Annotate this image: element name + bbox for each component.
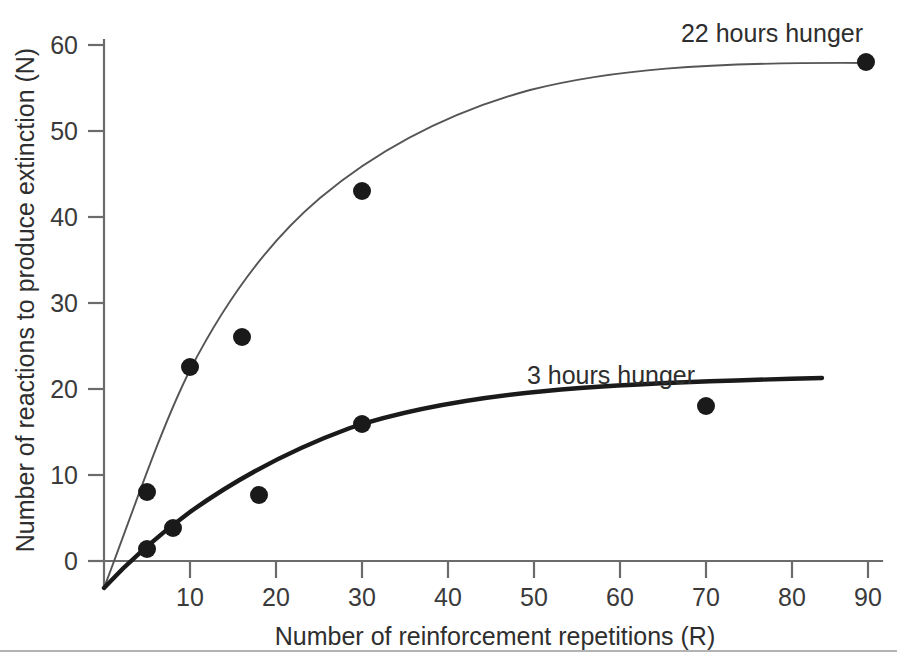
datapoint-3h-r5 (138, 540, 156, 558)
x-axis-title: Number of reinforcement repetitions (R) (275, 622, 715, 650)
fit-curve-22-hours-hunger (104, 63, 868, 588)
datapoint-22h-r10 (181, 358, 199, 376)
chart-figure: 60 50 40 30 20 10 0 10 20 30 40 50 60 70 (0, 0, 897, 652)
y-tick-label-50: 50 (50, 117, 78, 145)
x-tick-label-80: 80 (778, 583, 806, 611)
y-tick-label-60: 60 (50, 31, 78, 59)
series-3-hours-hunger (104, 378, 822, 588)
datapoint-3h-r18 (250, 486, 268, 504)
y-tick-label-40: 40 (50, 203, 78, 231)
x-tick-label-90: 90 (854, 583, 882, 611)
axis-group (104, 40, 882, 588)
x-tick-label-10: 10 (176, 583, 204, 611)
y-axis-title: Number of reactions to produce extinctio… (11, 48, 39, 552)
y-tick-label-20: 20 (50, 375, 78, 403)
datapoint-22h-r90 (857, 53, 875, 71)
x-tick-group: 10 20 30 40 50 60 70 80 90 (176, 561, 882, 611)
datapoint-22h-r16 (233, 328, 251, 346)
y-tick-group: 60 50 40 30 20 10 0 (50, 31, 104, 575)
y-tick-label-0: 0 (64, 547, 78, 575)
x-tick-label-40: 40 (434, 583, 462, 611)
series-label-22-hours-hunger: 22 hours hunger (681, 19, 863, 47)
x-tick-label-30: 30 (348, 583, 376, 611)
x-tick-label-20: 20 (262, 583, 290, 611)
scatter-plot-canvas: 60 50 40 30 20 10 0 10 20 30 40 50 60 70 (0, 0, 897, 652)
datapoint-22h-r30 (353, 182, 371, 200)
y-tick-label-10: 10 (50, 461, 78, 489)
x-tick-label-70: 70 (692, 583, 720, 611)
datapoint-3h-r30 (353, 415, 371, 433)
y-tick-label-30: 30 (50, 289, 78, 317)
series-label-3-hours-hunger: 3 hours hunger (527, 361, 695, 389)
datapoint-3h-r8 (164, 519, 182, 537)
datapoint-3h-r70 (697, 397, 715, 415)
x-tick-label-60: 60 (606, 583, 634, 611)
series-22-hours-hunger (104, 53, 875, 588)
fit-curve-3-hours-hunger (104, 378, 822, 588)
datapoint-22h-r5 (138, 483, 156, 501)
x-tick-label-50: 50 (520, 583, 548, 611)
